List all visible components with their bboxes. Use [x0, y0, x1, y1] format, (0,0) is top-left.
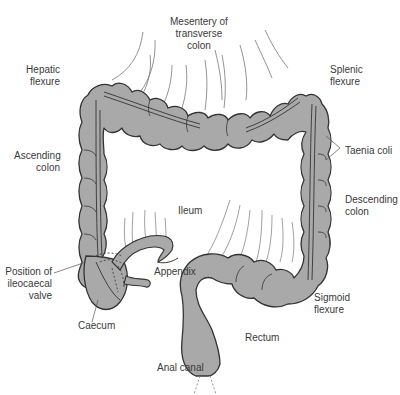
label-rectum: Rectum [245, 332, 279, 344]
label-ileum: Ileum [178, 205, 202, 217]
label-anal-canal: Anal canal [157, 362, 204, 374]
label-hepatic-flexure: Hepatic flexure [20, 64, 60, 88]
label-caecum: Caecum [78, 320, 115, 332]
appendix [124, 276, 150, 287]
anal-canal-dashes [194, 376, 216, 394]
label-ascending-colon: Ascending colon [14, 150, 60, 174]
colon-diagram: Mesentery of transverse colon Hepatic fl… [0, 0, 400, 395]
label-position-ileocaecal-valve: Position of ileocaecal valve [0, 266, 52, 302]
colon-illustration [0, 0, 400, 395]
ileum [112, 236, 173, 270]
label-descending-colon: Descending colon [345, 194, 398, 218]
label-mesentery-transverse-colon: Mesentery of transverse colon [170, 16, 228, 52]
label-sigmoid-flexure: Sigmoid flexure [314, 292, 350, 316]
label-splenic-flexure: Splenic flexure [330, 64, 363, 88]
label-taenia-coli: Taenia coli [345, 145, 392, 157]
sigmoid-mesentery-lines [205, 200, 305, 262]
label-appendix: Appendix [154, 266, 196, 278]
